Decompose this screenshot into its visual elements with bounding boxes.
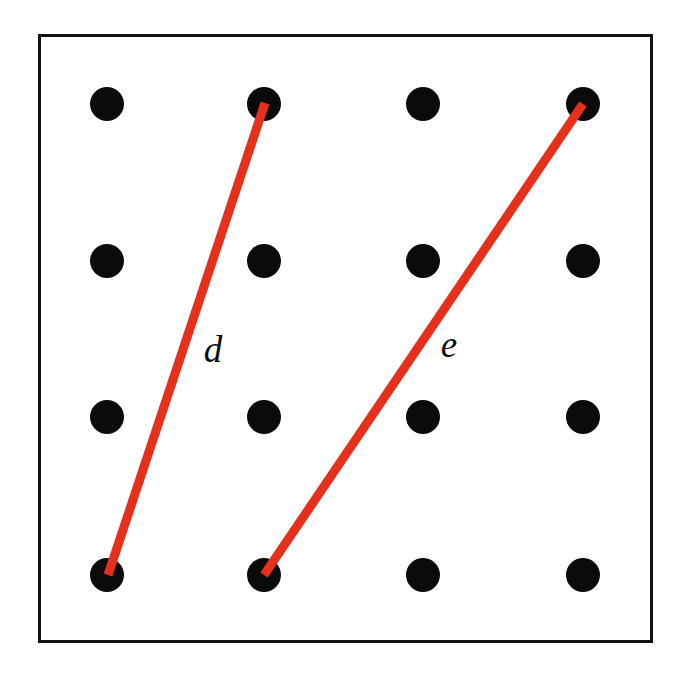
lattice-dot <box>90 558 124 592</box>
segment-label-d: d <box>204 331 223 368</box>
lattice-dot <box>247 400 281 434</box>
lattice-dot <box>406 244 440 278</box>
lattice-dot <box>406 400 440 434</box>
lattice-dot <box>566 244 600 278</box>
lattice-dot-grid <box>90 87 600 592</box>
lattice-dot <box>406 87 440 121</box>
figure-root: d e <box>0 0 681 684</box>
red-segments-group <box>108 103 583 575</box>
lattice-dot <box>247 244 281 278</box>
lattice-dot <box>566 400 600 434</box>
red-segment-d <box>108 103 265 575</box>
segment-label-e: e <box>441 326 457 363</box>
lattice-figure <box>0 0 681 684</box>
lattice-dot <box>90 400 124 434</box>
lattice-dot <box>406 558 440 592</box>
frame-border <box>40 36 652 642</box>
lattice-dot <box>90 244 124 278</box>
lattice-dot <box>566 558 600 592</box>
lattice-dot <box>90 87 124 121</box>
red-segment-e <box>264 104 583 575</box>
